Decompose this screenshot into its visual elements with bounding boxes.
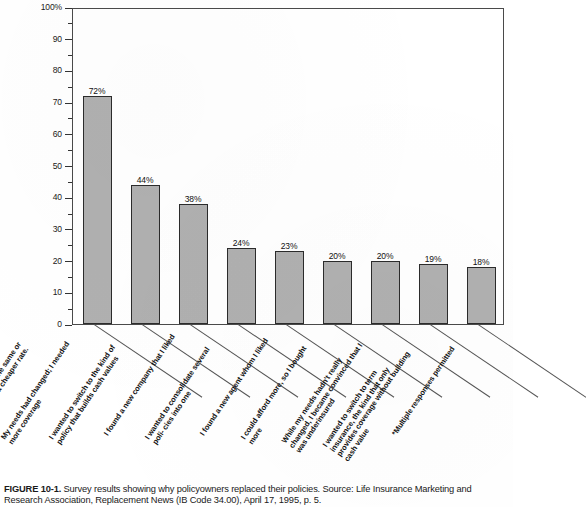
tick-mark xyxy=(65,8,72,9)
bar xyxy=(227,248,256,324)
bar-value-label: 24% xyxy=(221,238,262,248)
tick-mark xyxy=(65,71,72,72)
x-axis-labels: I thought I would get the same or more c… xyxy=(0,325,513,475)
bar xyxy=(179,204,208,324)
y-axis-tick-label: 60 xyxy=(53,129,62,139)
bar xyxy=(371,261,400,324)
y-axis-tick-label: 70 xyxy=(53,97,62,107)
tick-mark xyxy=(65,261,72,262)
leader-line xyxy=(478,324,586,398)
plot-area: 72%44%38%24%23%20%20%19%18% xyxy=(72,8,504,325)
bar-value-label: 18% xyxy=(461,257,502,267)
tick-mark xyxy=(65,229,72,230)
bar xyxy=(275,251,304,324)
figure-caption: FIGURE 10-1. Survey results showing why … xyxy=(4,484,510,506)
bar xyxy=(467,267,496,324)
tick-mark xyxy=(65,134,72,135)
y-axis-tick-label: 100% xyxy=(41,2,62,12)
bar xyxy=(131,185,160,324)
bar-value-label: 20% xyxy=(317,251,358,261)
tick-mark xyxy=(65,198,72,199)
y-axis-tick-label: 40 xyxy=(53,192,62,202)
y-axis-tick-label: 10 xyxy=(53,287,62,297)
bar xyxy=(323,261,352,324)
bar-value-label: 38% xyxy=(173,194,214,204)
bar xyxy=(419,264,448,324)
y-axis-tick-label: 30 xyxy=(53,224,62,234)
y-axis-tick-label: 20 xyxy=(53,256,62,266)
y-axis-tick-label: 80 xyxy=(53,65,62,75)
tick-mark xyxy=(65,103,72,104)
y-axis: 0102030405060708090100% xyxy=(0,8,72,325)
caption-line-1: Survey results showing why policyowners … xyxy=(61,484,412,494)
y-axis-tick-label: 50 xyxy=(53,161,62,171)
tick-mark xyxy=(65,166,72,167)
tick-mark xyxy=(65,39,72,40)
bar-value-label: 20% xyxy=(365,251,406,261)
bar-value-label: 19% xyxy=(413,254,454,264)
figure-number: FIGURE 10-1. xyxy=(4,484,61,494)
tick-mark xyxy=(65,293,72,294)
bar-value-label: 72% xyxy=(77,86,118,96)
y-axis-tick-label: 90 xyxy=(53,34,62,44)
bar-value-label: 44% xyxy=(125,175,166,185)
bar-value-label: 23% xyxy=(269,241,310,251)
bar xyxy=(83,96,112,324)
